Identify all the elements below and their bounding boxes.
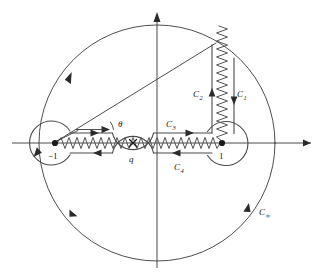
small-circle-left-arrowhead-icon [34, 147, 43, 158]
marker-branch-point-right [219, 140, 225, 146]
label-contour-c4-subscript: 4 [181, 167, 185, 174]
path-c4-arrowhead-left-icon [93, 150, 102, 157]
path-c3-arrowhead-right-icon [186, 130, 195, 137]
circle-infinity-arrowhead-lower-left-icon [66, 210, 78, 220]
diagram-root: −1 q 1 θ C 1 C 2 C 3 C 4 C ∞ [0, 0, 325, 280]
branch-cuts-group [57, 26, 228, 149]
real-axis-arrowhead-icon [303, 140, 311, 147]
keyhole-contour-group [30, 45, 248, 165]
label-pole-q: q [129, 154, 134, 164]
branch-cut-vertical-zigzag [217, 26, 228, 141]
angle-vertex-connector [57, 131, 78, 142]
path-c3-arrowhead-left-icon [91, 130, 100, 137]
circle-infinity-arrowhead-upper-left-icon [64, 72, 73, 85]
axes-group [12, 12, 311, 268]
path-c4-arrowhead-right-icon [172, 150, 181, 157]
path-c2-arrowhead-icon [209, 88, 216, 97]
marker-branch-point-left [52, 140, 58, 146]
label-contour-c2-subscript: 2 [200, 94, 204, 101]
imaginary-axis-arrowhead-icon [154, 12, 161, 22]
label-contour-c-infinity-subscript: ∞ [266, 212, 271, 220]
label-branch-point-right: 1 [219, 151, 224, 161]
label-branch-point-left: −1 [48, 151, 58, 161]
contour-integration-figure: −1 q 1 θ C 1 C 2 C 3 C 4 C ∞ [0, 0, 325, 280]
label-angle-theta: θ [118, 119, 123, 129]
label-contour-c3-subscript: 3 [172, 124, 177, 131]
labels-group: −1 q 1 θ C 1 C 2 C 3 C 4 C ∞ [48, 89, 271, 220]
label-contour-c1-subscript: 1 [244, 94, 247, 101]
angle-arc [111, 122, 114, 130]
circle-infinity-arrowhead-lower-right-icon [241, 203, 254, 215]
